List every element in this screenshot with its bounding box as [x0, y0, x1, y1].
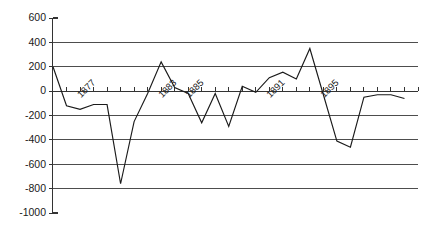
gridlines: [53, 42, 418, 188]
line-chart: 6004002000-200-400-600-800-1000 18771883…: [0, 0, 435, 228]
y-axis-tick-labels: 6004002000-200-400-600-800-1000: [19, 11, 53, 218]
y-tick-label: -200: [25, 109, 46, 121]
data-series-line: [53, 48, 404, 183]
y-tick-label: 400: [28, 36, 46, 48]
y-tick-label: -400: [25, 133, 46, 145]
y-tick-label: -800: [25, 182, 46, 194]
x-axis-tick-labels: 18771883188518911895: [75, 77, 341, 100]
y-tick-label: -1000: [19, 206, 46, 218]
y-tick-label: 0: [40, 84, 46, 96]
chart-canvas: 6004002000-200-400-600-800-1000 18771883…: [0, 0, 435, 228]
y-tick-label: 200: [28, 60, 46, 72]
y-tick-label: 600: [28, 11, 46, 23]
y-tick-label: -600: [25, 158, 46, 170]
